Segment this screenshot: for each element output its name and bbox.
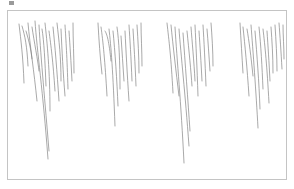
cluster-4	[240, 23, 284, 128]
image-icon	[9, 1, 14, 5]
icicle-sketch	[8, 11, 288, 181]
cluster-2	[98, 23, 142, 126]
cluster-1	[19, 21, 74, 159]
image-frame: Pencil sketch of four clusters of hangin…	[7, 10, 287, 180]
cluster-3	[167, 23, 213, 163]
